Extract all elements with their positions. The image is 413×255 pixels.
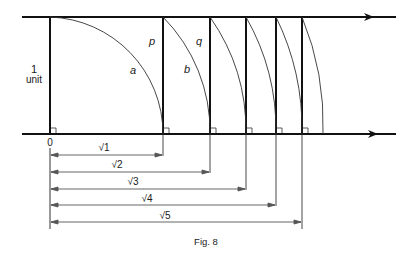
dimension-label-sqrt1: √1 (98, 142, 109, 153)
right-angle-markers (51, 128, 308, 133)
label-p: p (148, 35, 155, 47)
origin-label: 0 (47, 137, 53, 148)
arc-6 (302, 17, 323, 134)
dimension-arrows (51, 153, 301, 224)
figure-caption: Fig. 8 (194, 236, 218, 247)
label-b: b (184, 63, 190, 75)
dimension-label-sqrt5: √5 (159, 210, 170, 221)
arc-3 (210, 17, 246, 134)
dimension-label-sqrt2: √2 (111, 159, 122, 170)
spiral-root-diagram: 1 unit 0 p q a b √1 √2 √3 √4 √5 Fig. 8 (0, 0, 413, 255)
label-q: q (196, 35, 203, 47)
dimension-label-sqrt3: √3 (127, 176, 138, 187)
arc-5 (276, 17, 302, 134)
arc-b (163, 17, 210, 134)
dimension-label-sqrt4: √4 (141, 193, 152, 204)
unit-label-text: unit (26, 74, 42, 85)
arc-4 (246, 17, 276, 134)
label-a: a (130, 64, 136, 76)
arc-a (50, 17, 163, 134)
